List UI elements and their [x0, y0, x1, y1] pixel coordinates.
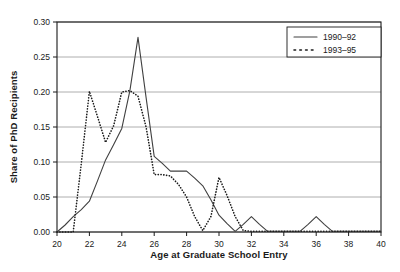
x-tick-label: 30 [214, 239, 224, 249]
x-tick-label: 32 [247, 239, 257, 249]
x-tick-label: 36 [311, 239, 321, 249]
y-tick-label: 0.10 [33, 157, 50, 167]
x-tick-label: 34 [279, 239, 289, 249]
y-tick-label: 0.25 [33, 52, 50, 62]
x-axis-title: Age at Graduate School Entry [150, 249, 288, 260]
y-tick-label: 0.15 [33, 122, 50, 132]
y-tick-label: 0.05 [33, 192, 50, 202]
chart-legend: 1990–921993–95 [287, 27, 381, 57]
x-tick-label: 20 [52, 239, 62, 249]
legend-label-1: 1993–95 [323, 45, 356, 55]
x-tick-label: 24 [117, 239, 127, 249]
x-tick-label: 38 [344, 239, 354, 249]
x-tick-label: 22 [85, 239, 95, 249]
legend-label-0: 1990–92 [323, 32, 356, 42]
y-tick-label: 0.00 [33, 227, 50, 237]
chart-figure: 0.000.050.100.150.200.250.30 20222426283… [0, 0, 400, 272]
x-tick-label: 28 [182, 239, 192, 249]
phd-age-distribution-chart: 0.000.050.100.150.200.250.30 20222426283… [0, 0, 400, 272]
y-tick-label: 0.20 [33, 87, 50, 97]
y-tick-label: 0.30 [33, 17, 50, 27]
x-tick-label: 26 [149, 239, 159, 249]
y-axis-title: Share of PhD Recipients [8, 71, 19, 184]
x-tick-label: 40 [376, 239, 386, 249]
